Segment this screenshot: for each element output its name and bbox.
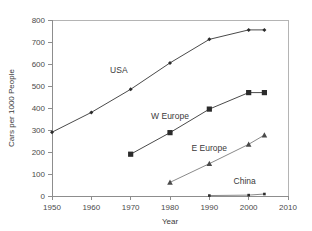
marker-e-europe [246, 142, 252, 147]
y-tick-label: 100 [32, 170, 46, 179]
series-label-usa: USA [110, 65, 128, 75]
marker-usa [50, 130, 54, 134]
plot-frame [52, 20, 288, 196]
x-axis-ticks: 1950196019701980199020002010 [43, 196, 297, 212]
series-line-china [209, 194, 264, 196]
series-label-w-europe: W Europe [151, 111, 189, 121]
y-tick-label: 700 [32, 38, 46, 47]
y-tick-label: 500 [32, 82, 46, 91]
marker-w-europe [167, 130, 172, 135]
marker-w-europe [246, 90, 251, 95]
marker-usa [247, 28, 251, 32]
x-axis-title: Year [162, 217, 179, 226]
axis-lines [52, 20, 288, 196]
cars-per-1000-people-line-chart: 0100200300400500600700800 19501960197019… [0, 0, 312, 231]
x-tick-label: 2010 [279, 203, 297, 212]
y-tick-label: 600 [32, 60, 46, 69]
y-axis-ticks: 0100200300400500600700800 [32, 16, 52, 201]
y-tick-label: 300 [32, 126, 46, 135]
marker-w-europe [207, 107, 212, 112]
series-label-china: China [234, 176, 256, 186]
x-tick-label: 2000 [240, 203, 258, 212]
x-tick-label: 1960 [82, 203, 100, 212]
y-tick-label: 800 [32, 16, 46, 25]
x-tick-label: 1950 [43, 203, 61, 212]
series-label-e-europe: E Europe [192, 143, 228, 153]
y-tick-label: 400 [32, 104, 46, 113]
marker-e-europe [262, 132, 268, 137]
marker-china [247, 194, 250, 197]
marker-e-europe [207, 161, 213, 166]
marker-china [208, 194, 211, 197]
x-tick-label: 1990 [200, 203, 218, 212]
marker-w-europe [128, 152, 133, 157]
marker-usa [262, 28, 266, 32]
marker-e-europe [167, 180, 173, 185]
y-tick-label: 0 [41, 192, 46, 201]
y-tick-label: 200 [32, 148, 46, 157]
marker-w-europe [262, 90, 267, 95]
x-tick-label: 1970 [122, 203, 140, 212]
y-axis-title: Cars per 1000 People [7, 69, 16, 147]
x-tick-label: 1980 [161, 203, 179, 212]
marker-china [263, 193, 266, 196]
chart-container: 0100200300400500600700800 19501960197019… [0, 0, 312, 231]
